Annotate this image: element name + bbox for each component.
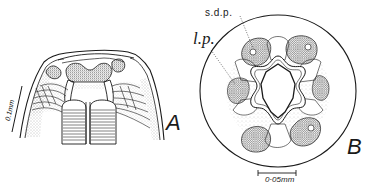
panel-a: 0.1mm A [0,0,185,190]
lp-label: l.p. [193,30,215,47]
sdp-label: s.d.p. [205,8,232,18]
panel-b-label: B [347,136,362,158]
panel-a-label: A [166,112,181,134]
panel-a-drawing [0,0,185,190]
panel-b: s.d.p. l.p. 0·05mm B [185,0,369,190]
scale-bar-b-label: 0·05mm [265,176,294,184]
scale-bar-a-line [12,86,22,132]
scientific-figure: 0.1mm A [0,0,369,190]
lp-leader-line [211,50,235,84]
